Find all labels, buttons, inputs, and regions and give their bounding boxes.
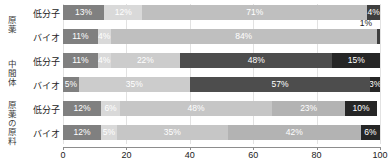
gridline-100 [380,4,381,144]
plot-area: 13%12%71%4%1%11%4%84%11%4%22%48%15%5%35%… [63,0,380,147]
segment-value-label: 6% [104,101,116,116]
bar-segment: 42% [228,125,361,140]
bar-segment: 6% [101,101,120,116]
segment-value-label: 35% [126,77,143,92]
gridline-80 [317,4,318,144]
bar-row: 12%5%35%42%6% [63,125,380,140]
group-label-genyaku-no-genryo: 原薬の原料 [2,99,18,147]
segment-value-label: 4% [98,53,110,68]
segment-value-label: 11% [72,29,88,44]
bar-segment: 71% [142,5,367,20]
row-label-1: 低分子 [20,9,60,20]
bar-row: 11%4%22%48%15% [63,53,380,68]
segment-value-label: 13% [75,5,92,20]
row-label-3: 低分子 [20,57,60,68]
segment-value-label: 57% [272,77,289,92]
bar-segment: 22% [111,53,181,68]
row-label-4: バイオ [20,81,60,92]
x-tick-label: 60 [248,150,258,160]
segment-value-label: 84% [235,29,252,44]
segment-value-label: 12% [74,101,91,116]
bar-segment: 6% [361,125,380,140]
row-label-5: 低分子 [20,105,60,116]
segment-value-label: 11% [72,53,88,68]
bar-segment: 5% [63,77,79,92]
x-tick-label: 100 [372,150,387,160]
bar-segment: 3% [370,77,380,92]
segment-value-label: 5% [65,77,77,92]
bar-segment: 11% [63,29,98,44]
bar-row: 12%6%48%23%10% [63,101,380,116]
gridline-60 [253,4,254,144]
x-axis-line [63,147,380,148]
segment-value-label: 22% [137,53,154,68]
bar-segment: 23% [272,101,345,116]
segment-value-label: 42% [286,125,303,140]
bar-row: 11%4%84% [63,29,380,44]
row-label-2: バイオ [20,33,60,44]
segment-value-label: 6% [364,125,376,140]
segment-value-label-external: 1% [360,18,372,28]
bar-segment: 12% [104,5,142,20]
segment-value-label: 4% [98,29,110,44]
gridline-40 [190,4,191,144]
bar-segment: 12% [63,101,101,116]
bar-segment: 35% [117,125,228,140]
gridline-0 [63,4,64,144]
x-tick-label: 40 [185,150,195,160]
group-label-genyaku: 原薬 [2,4,18,46]
bar-segment: 4% [98,29,111,44]
segment-value-label: 15% [348,53,365,68]
bar-segment: 12% [63,125,101,140]
segment-value-label: 23% [300,101,317,116]
group-label-chukantai: 中間体 [2,52,18,94]
bar-segment [377,29,380,44]
bar-segment: 10% [345,101,377,116]
gridline-20 [126,4,127,144]
segment-value-label: 5% [103,125,115,140]
bar-segment: 48% [180,53,332,68]
bar-segment: 57% [190,77,371,92]
segment-value-label: 48% [248,53,265,68]
x-tick-label: 0 [60,150,65,160]
bar-segment: 84% [111,29,377,44]
bar-segment: 13% [63,5,104,20]
segment-value-label: 10% [352,101,369,116]
segment-value-label: 48% [188,101,205,116]
segment-value-label: 71% [246,5,263,20]
bar-segment: 48% [120,101,272,116]
bar-row: 13%12%71%4% [63,5,380,20]
bar-row: 5%35%57%3% [63,77,380,92]
bar-segment: 4% [98,53,111,68]
bar-segment: 15% [332,53,380,68]
x-tick-label: 20 [121,150,131,160]
segment-value-label: 3% [370,77,380,92]
segment-value-label: 35% [164,125,181,140]
row-label-6: バイオ [20,129,60,140]
bar-segment: 5% [101,125,117,140]
bar-segment: 11% [63,53,98,68]
x-tick-label: 80 [312,150,322,160]
segment-value-label: 12% [115,5,132,20]
bar-segment: 35% [79,77,190,92]
segment-value-label: 12% [74,125,91,140]
